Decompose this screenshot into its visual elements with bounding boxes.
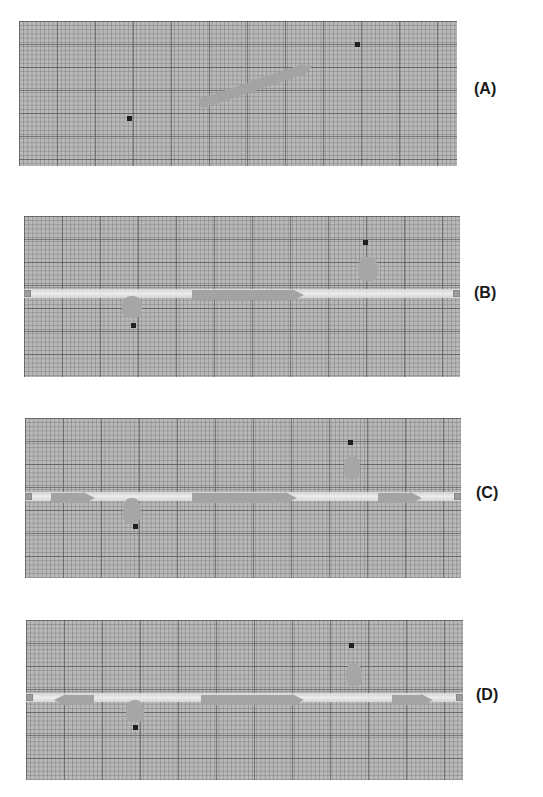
dot-marker xyxy=(133,524,138,529)
panel-label-d: (D) xyxy=(476,686,498,704)
arrow-left-icon xyxy=(54,694,94,706)
dot-marker xyxy=(363,240,368,245)
panel-d xyxy=(26,620,463,780)
arrow-right-icon xyxy=(51,492,95,504)
arrow-layer xyxy=(24,216,460,377)
panel-b xyxy=(24,216,460,377)
dot-marker xyxy=(355,42,360,47)
arrow-layer xyxy=(19,21,457,166)
panel-a xyxy=(19,21,457,166)
arrow-layer xyxy=(25,418,461,578)
arrow-right-icon xyxy=(198,64,313,109)
panel-label-a: (A) xyxy=(474,80,496,98)
arrow-right-icon xyxy=(192,289,304,301)
dot-marker xyxy=(133,725,138,730)
panel-label-c: (C) xyxy=(476,484,498,502)
panel-c xyxy=(25,418,461,578)
arrow-layer xyxy=(26,620,463,780)
dot-marker xyxy=(127,116,132,121)
dot-marker xyxy=(348,440,353,445)
panel-label-b: (B) xyxy=(474,284,496,302)
arrow-right-icon xyxy=(201,694,304,706)
arrow-right-icon xyxy=(192,492,297,504)
dot-marker xyxy=(131,323,136,328)
arrow-right-icon xyxy=(392,694,433,706)
dot-marker xyxy=(349,643,354,648)
arrow-right-icon xyxy=(378,492,422,504)
